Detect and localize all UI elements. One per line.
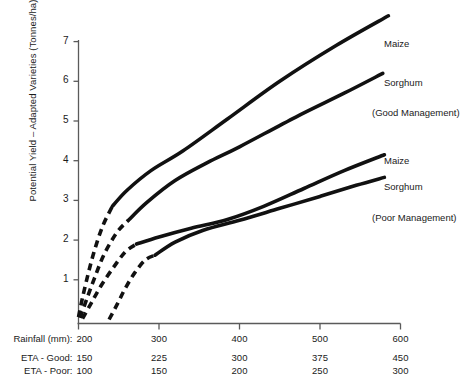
curve-label-maize-good: Maize: [384, 38, 409, 49]
x-tick-label-eta-poor-300: 300: [381, 365, 421, 376]
x-tick-label-eta-poor-250: 250: [300, 365, 340, 376]
x-tick-label-rainfall-300: 300: [139, 333, 179, 344]
chart-axes: [74, 40, 401, 330]
curve-solid-sorghum-good-management: [128, 73, 382, 220]
x-tick-label-eta-poor-150: 150: [139, 365, 179, 376]
y-tick-label-2: 2: [55, 233, 69, 244]
x-tick-label-rainfall-400: 400: [220, 333, 260, 344]
chart-curves: [79, 16, 389, 320]
curve-solid-maize-poor-management: [136, 155, 384, 244]
x-tick-label-rainfall-500: 500: [300, 333, 340, 344]
curve-solid-maize-good-management: [112, 16, 388, 207]
x-tick-label-eta-good-450: 450: [381, 352, 421, 363]
x-tick-label-rainfall-200: 200: [77, 333, 117, 344]
x-tick-label-eta-good-150: 150: [77, 352, 117, 363]
curve-label-sorghum-good: Sorghum: [384, 77, 423, 88]
x-tick-label-eta-poor-200: 200: [220, 365, 260, 376]
x-tick-label-rainfall-600: 600: [381, 333, 421, 344]
curve-label-maize-poor: Maize: [384, 155, 409, 166]
curve-solid-sorghum-poor-management: [155, 177, 384, 255]
curve-dashed-sorghum-good-management: [80, 220, 128, 318]
x-axis-row-label-eta-poor: ETA - Poor:: [0, 365, 73, 376]
curve-label-poor-management: (Poor Management): [372, 212, 456, 223]
x-tick-label-eta-poor-100: 100: [77, 365, 117, 376]
x-tick-label-eta-good-300: 300: [220, 352, 260, 363]
y-tick-label-7: 7: [55, 35, 69, 46]
x-tick-label-eta-good-225: 225: [139, 352, 179, 363]
y-tick-label-5: 5: [55, 114, 69, 125]
y-tick-label-6: 6: [55, 74, 69, 85]
y-tick-label-4: 4: [55, 154, 69, 165]
x-axis-row-label-rainfall: Rainfall (mm):: [0, 333, 73, 344]
curve-label-good-management: (Good Management): [372, 107, 460, 118]
y-tick-label-1: 1: [55, 273, 69, 284]
y-tick-label-3: 3: [55, 193, 69, 204]
x-tick-label-eta-good-375: 375: [300, 352, 340, 363]
y-axis-title: Potential Yield – Adapted Varieties (Ton…: [27, 0, 38, 221]
curve-label-sorghum-poor: Sorghum: [384, 181, 423, 192]
curve-dashed-maize-good-management: [79, 206, 113, 317]
x-axis-row-label-eta-good: ETA - Good:: [0, 352, 73, 363]
